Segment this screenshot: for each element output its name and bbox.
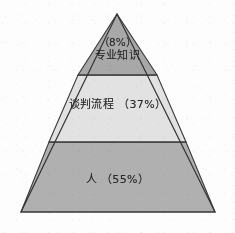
tier-top-percent-label: （8%） [0, 36, 235, 49]
pyramid-tier-base-label: 人 （55%） [0, 172, 235, 187]
pyramid-tier-middle-label: 谈判流程 （37%） [0, 97, 235, 112]
pyramid-figure: （8%） 专业知识 谈判流程 （37%） 人 （55%） [0, 0, 235, 233]
tier-top-name-label: 专业知识 [0, 49, 235, 63]
pyramid-tier-top-label-group: （8%） 专业知识 [0, 36, 235, 63]
pyramid-graphic [0, 0, 235, 233]
